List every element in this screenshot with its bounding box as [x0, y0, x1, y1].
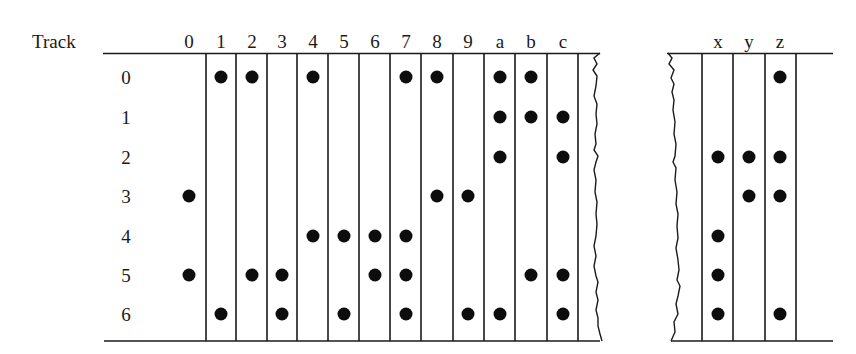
- bit-dot-x-track-6: [712, 308, 725, 321]
- column-labels-right: xyz: [713, 31, 784, 52]
- column-label-2: 2: [247, 31, 257, 52]
- left-column-dividers: [206, 53, 578, 341]
- bit-dot-c-track-2: [557, 151, 570, 164]
- bit-dot-3-track-6: [276, 308, 289, 321]
- bit-dot-y-track-2: [743, 151, 756, 164]
- column-labels-left: 0123456789abc: [184, 31, 567, 52]
- bit-dot-c-track-1: [557, 111, 570, 124]
- left-panel-frame: [103, 53, 602, 341]
- bit-dot-7-track-4: [400, 230, 413, 243]
- left-torn-edge: [593, 53, 602, 341]
- bit-dot-0-track-5: [183, 269, 196, 282]
- column-label-0: 0: [184, 31, 194, 52]
- bit-dot-a-track-0: [494, 71, 507, 84]
- bit-dot-6-track-5: [369, 269, 382, 282]
- track-labels: 0123456: [121, 67, 131, 325]
- bit-dot-x-track-5: [712, 269, 725, 282]
- bit-dot-z-track-3: [774, 190, 787, 203]
- bit-dot-5-track-6: [338, 308, 351, 321]
- column-label-x: x: [713, 31, 723, 52]
- bit-dot-x-track-4: [712, 230, 725, 243]
- column-label-6: 6: [370, 31, 380, 52]
- column-label-3: 3: [277, 31, 287, 52]
- right-torn-edge: [668, 53, 680, 341]
- track-label-0: 0: [121, 67, 131, 88]
- bit-dot-a-track-2: [494, 151, 507, 164]
- column-label-1: 1: [216, 31, 226, 52]
- column-label-c: c: [559, 31, 567, 52]
- bit-dot-9-track-3: [462, 190, 475, 203]
- bit-dot-b-track-0: [525, 71, 538, 84]
- bit-dot-9-track-6: [462, 308, 475, 321]
- column-label-9: 9: [463, 31, 473, 52]
- bit-dot-a-track-6: [494, 308, 507, 321]
- track-header: Track: [32, 31, 76, 52]
- column-label-4: 4: [308, 31, 318, 52]
- bit-dot-z-track-6: [774, 308, 787, 321]
- bit-dot-4-track-0: [307, 71, 320, 84]
- bit-dot-b-track-5: [525, 269, 538, 282]
- bit-dot-y-track-3: [743, 190, 756, 203]
- track-label-5: 5: [121, 265, 131, 286]
- bit-dot-z-track-0: [774, 71, 787, 84]
- bit-dot-1-track-6: [215, 308, 228, 321]
- bit-dot-0-track-3: [183, 190, 196, 203]
- bit-dot-b-track-1: [525, 111, 538, 124]
- bit-dot-4-track-4: [307, 230, 320, 243]
- bit-dot-8-track-0: [431, 71, 444, 84]
- track-label-6: 6: [121, 304, 131, 325]
- track-label-1: 1: [121, 107, 131, 128]
- column-label-7: 7: [401, 31, 411, 52]
- bit-dot-1-track-0: [215, 71, 228, 84]
- bit-dot-2-track-5: [246, 269, 259, 282]
- track-label-2: 2: [121, 147, 131, 168]
- bit-dot-7-track-5: [400, 269, 413, 282]
- bit-dot-c-track-5: [557, 269, 570, 282]
- bit-dot-3-track-5: [276, 269, 289, 282]
- column-label-b: b: [526, 31, 536, 52]
- bit-dot-a-track-1: [494, 111, 507, 124]
- tape-track-diagram: Track 0123456789abc xyz 0123456: [0, 0, 856, 354]
- column-label-y: y: [744, 31, 754, 52]
- column-label-z: z: [776, 31, 784, 52]
- bit-dot-7-track-6: [400, 308, 413, 321]
- column-label-5: 5: [339, 31, 349, 52]
- bit-dot-z-track-2: [774, 151, 787, 164]
- bit-dot-c-track-6: [557, 308, 570, 321]
- column-label-a: a: [496, 31, 505, 52]
- bit-dot-7-track-0: [400, 71, 413, 84]
- bit-dot-5-track-4: [338, 230, 351, 243]
- bit-dot-8-track-3: [431, 190, 444, 203]
- bit-dot-x-track-2: [712, 151, 725, 164]
- bit-dot-6-track-4: [369, 230, 382, 243]
- column-label-8: 8: [432, 31, 442, 52]
- track-label-4: 4: [121, 226, 131, 247]
- bit-dot-2-track-0: [246, 71, 259, 84]
- track-label-3: 3: [121, 186, 131, 207]
